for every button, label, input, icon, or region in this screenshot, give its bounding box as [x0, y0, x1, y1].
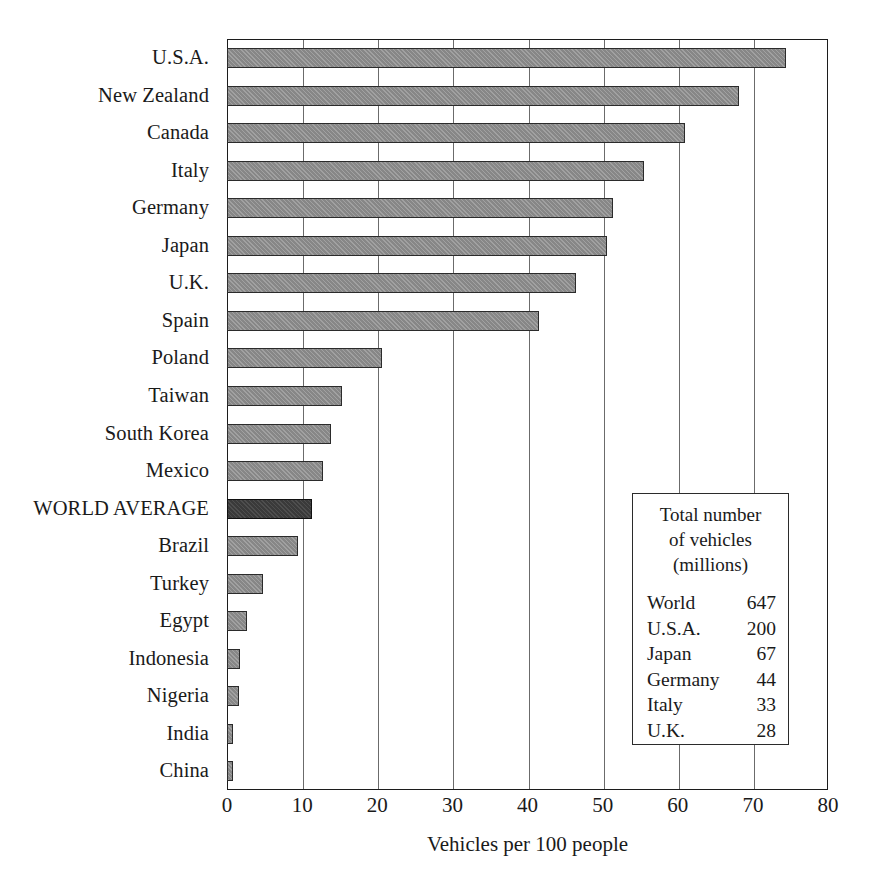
bar — [227, 48, 786, 68]
legend-row-value: 28 — [757, 718, 777, 744]
bar-row — [227, 227, 828, 265]
x-tick-label: 40 — [517, 793, 538, 818]
legend-row: Japan67 — [647, 641, 776, 667]
bar-row — [227, 264, 828, 302]
bar — [227, 686, 239, 706]
bar-row — [227, 302, 828, 340]
legend-row: World647 — [647, 590, 776, 616]
x-tick-label: 60 — [667, 793, 688, 818]
bar — [227, 649, 240, 669]
bar-row — [227, 452, 828, 490]
category-label: New Zealand — [0, 77, 218, 115]
bar-row — [227, 339, 828, 377]
category-label: South Korea — [0, 415, 218, 453]
x-tick-label: 10 — [292, 793, 313, 818]
legend-row: Germany44 — [647, 667, 776, 693]
category-label: Mexico — [0, 452, 218, 490]
x-tick-label: 70 — [742, 793, 763, 818]
legend-row-value: 33 — [757, 692, 777, 718]
category-label: Spain — [0, 302, 218, 340]
legend-rows: World647U.S.A.200Japan67Germany44Italy33… — [633, 590, 788, 743]
bar — [227, 724, 233, 744]
category-label: Germany — [0, 189, 218, 227]
bar-row — [227, 152, 828, 190]
legend-row-name: Germany — [647, 667, 720, 693]
bar — [227, 236, 607, 256]
bar — [227, 536, 298, 556]
category-label: U.K. — [0, 264, 218, 302]
bar — [227, 198, 613, 218]
bar-row — [227, 114, 828, 152]
category-label: India — [0, 715, 218, 753]
bar — [227, 273, 576, 293]
category-label: Poland — [0, 339, 218, 377]
category-label: U.S.A. — [0, 39, 218, 77]
vehicles-per-100-people-bar-chart: U.S.A.New ZealandCanadaItalyGermanyJapan… — [0, 0, 874, 886]
legend-row-value: 67 — [757, 641, 777, 667]
x-axis-title: Vehicles per 100 people — [227, 832, 828, 857]
legend-row-name: World — [647, 590, 695, 616]
category-label: China — [0, 752, 218, 790]
category-label: Taiwan — [0, 377, 218, 415]
x-tick-label: 50 — [592, 793, 613, 818]
bar-row — [227, 189, 828, 227]
category-label: WORLD AVERAGE — [0, 490, 218, 528]
bar-row — [227, 39, 828, 77]
category-label: Egypt — [0, 602, 218, 640]
bar — [227, 611, 247, 631]
category-label: Turkey — [0, 565, 218, 603]
category-label: Nigeria — [0, 677, 218, 715]
x-axis-tick-labels: 01020304050607080 — [227, 793, 828, 827]
legend-row-value: 44 — [757, 667, 777, 693]
x-tick-label: 30 — [442, 793, 463, 818]
category-label: Italy — [0, 152, 218, 190]
legend-row-value: 200 — [747, 616, 776, 642]
legend-row-name: U.S.A. — [647, 616, 701, 642]
bar — [227, 161, 644, 181]
legend-row-name: Italy — [647, 692, 683, 718]
bar — [227, 348, 382, 368]
legend-row-name: U.K. — [647, 718, 685, 744]
bar-row — [227, 377, 828, 415]
legend-row-name: Japan — [647, 641, 691, 667]
legend-title-line: Total number — [633, 502, 788, 527]
bar — [227, 461, 323, 481]
bar-row — [227, 415, 828, 453]
bar — [227, 86, 739, 106]
bar-row — [227, 752, 828, 790]
bar-row — [227, 77, 828, 115]
bar — [227, 386, 342, 406]
bar — [227, 574, 263, 594]
category-label: Brazil — [0, 527, 218, 565]
legend-row-value: 647 — [747, 590, 776, 616]
x-tick-label: 80 — [818, 793, 839, 818]
legend-title: Total numberof vehicles(millions) — [633, 502, 788, 577]
legend-title-line: (millions) — [633, 552, 788, 577]
legend-total-vehicles: Total numberof vehicles(millions) World6… — [632, 493, 789, 745]
legend-title-line: of vehicles — [633, 527, 788, 552]
bar — [227, 311, 539, 331]
x-tick-label: 0 — [222, 793, 233, 818]
bar — [227, 123, 685, 143]
category-label: Japan — [0, 227, 218, 265]
bar — [227, 424, 331, 444]
legend-row: U.K.28 — [647, 718, 776, 744]
x-tick-label: 20 — [367, 793, 388, 818]
bar — [227, 761, 233, 781]
category-label: Indonesia — [0, 640, 218, 678]
legend-row: U.S.A.200 — [647, 616, 776, 642]
category-axis-labels: U.S.A.New ZealandCanadaItalyGermanyJapan… — [0, 39, 218, 790]
category-label: Canada — [0, 114, 218, 152]
legend-row: Italy33 — [647, 692, 776, 718]
bar — [227, 499, 312, 519]
